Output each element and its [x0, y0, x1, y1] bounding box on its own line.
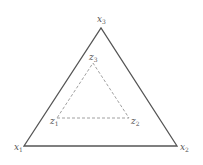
vertex-label-x3: x3 [97, 14, 106, 25]
triangle-diagram: x1 x2 x3 z1 z2 z3 [0, 0, 203, 165]
vertex-label-x1: x1 [14, 142, 23, 153]
outer-triangle [24, 28, 177, 146]
vertex-label-z3: z3 [88, 52, 98, 63]
vertex-label-x2: x2 [180, 142, 189, 153]
inner-dashed-triangle [57, 63, 129, 118]
vertex-label-z2: z2 [130, 116, 140, 127]
